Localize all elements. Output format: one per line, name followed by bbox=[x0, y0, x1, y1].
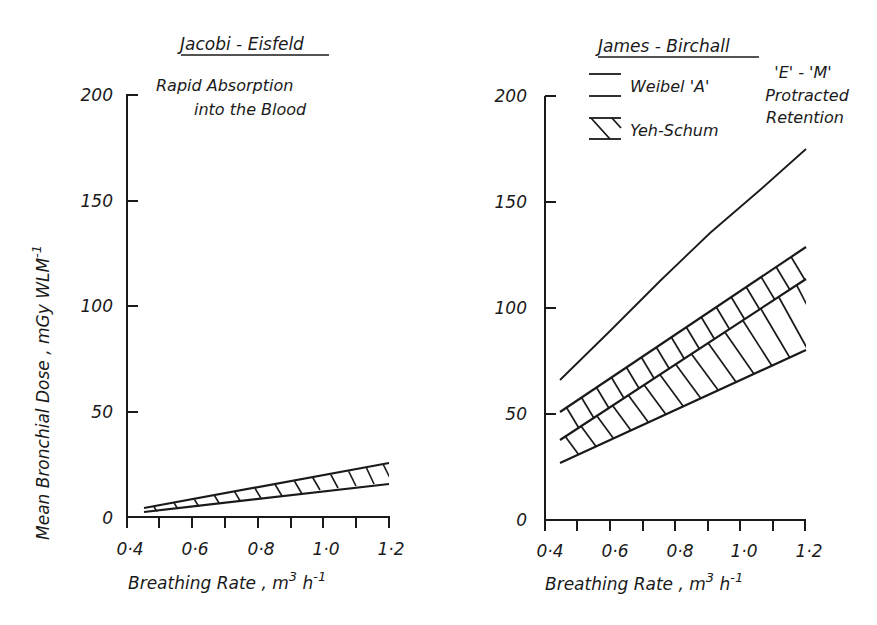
left-subtitle-line1: Rapid Absorption bbox=[156, 76, 293, 95]
svg-text:0·6: 0·6 bbox=[601, 541, 628, 561]
svg-text:50: 50 bbox=[505, 404, 527, 424]
svg-text:1·0: 1·0 bbox=[312, 539, 339, 559]
left-chart-title: Jacobi - Eisfeld bbox=[177, 34, 304, 54]
svg-text:0: 0 bbox=[102, 508, 113, 528]
right-y-ticks bbox=[545, 96, 556, 414]
right-x-axis-label: Breathing Rate , m3 h-1 bbox=[545, 570, 743, 594]
right-x-tick-labels: 0·4 0·6 0·8 1·0 1·2 bbox=[536, 541, 822, 561]
svg-text:1·0: 1·0 bbox=[730, 541, 757, 561]
right-chart: James - Birchall Weibel 'A' Yeh-Schum 'E… bbox=[495, 36, 850, 594]
svg-text:100: 100 bbox=[81, 296, 113, 316]
left-x-tick-labels: 0·4 0·6 0·8 1·0 1·2 bbox=[116, 539, 404, 559]
svg-text:50: 50 bbox=[91, 402, 113, 422]
right-x-ticks bbox=[545, 520, 805, 531]
legend-yeh-label: Yeh-Schum bbox=[630, 121, 719, 140]
left-subtitle-line2: into the Blood bbox=[194, 100, 307, 119]
left-hatched-band bbox=[144, 452, 391, 520]
legend: Weibel 'A' Yeh-Schum bbox=[589, 74, 719, 140]
figure: Jacobi - Eisfeld Rapid Absorption into t… bbox=[0, 0, 877, 625]
svg-text:150: 150 bbox=[81, 191, 113, 211]
svg-text:150: 150 bbox=[495, 192, 527, 212]
svg-text:1·2: 1·2 bbox=[377, 539, 404, 559]
left-x-axis-label: Breathing Rate , m3 h-1 bbox=[128, 569, 326, 593]
svg-text:200: 200 bbox=[495, 86, 527, 106]
yeh-schum-bands bbox=[560, 247, 826, 470]
y-axis-label: Mean Bronchial Dose , mGy WLM-1 bbox=[29, 245, 53, 540]
svg-text:1·2: 1·2 bbox=[795, 541, 822, 561]
svg-text:0: 0 bbox=[516, 510, 527, 530]
svg-text:0·6: 0·6 bbox=[181, 539, 208, 559]
legend-yeh-swatch bbox=[589, 118, 621, 139]
right-annotation: 'E' - 'M' Protracted Retention bbox=[765, 63, 850, 127]
svg-text:'E' - 'M': 'E' - 'M' bbox=[774, 63, 831, 82]
svg-text:0·4: 0·4 bbox=[116, 539, 143, 559]
weibel-line bbox=[560, 149, 806, 380]
svg-text:Protracted: Protracted bbox=[765, 86, 850, 105]
right-chart-title: James - Birchall bbox=[595, 36, 730, 56]
svg-text:0·8: 0·8 bbox=[666, 541, 693, 561]
left-y-ticks bbox=[127, 95, 138, 412]
left-x-ticks bbox=[127, 517, 389, 528]
svg-text:0·8: 0·8 bbox=[247, 539, 274, 559]
left-y-tick-labels: 200 150 100 50 0 bbox=[81, 85, 113, 528]
svg-text:100: 100 bbox=[495, 298, 527, 318]
left-chart: Jacobi - Eisfeld Rapid Absorption into t… bbox=[29, 34, 405, 593]
svg-text:0·4: 0·4 bbox=[536, 541, 563, 561]
right-y-tick-labels: 200 150 100 50 0 bbox=[495, 86, 527, 530]
svg-text:Retention: Retention bbox=[766, 108, 844, 127]
legend-weibel-label: Weibel 'A' bbox=[630, 77, 709, 96]
svg-text:200: 200 bbox=[81, 85, 113, 105]
